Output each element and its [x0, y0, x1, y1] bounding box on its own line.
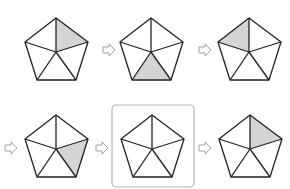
spoke-line [152, 139, 184, 149]
pentagon-sequence-diagram [0, 0, 290, 189]
spoke-line [37, 52, 56, 80]
right-arrow-icon [103, 44, 115, 56]
spoke-line [230, 52, 249, 80]
spoke-line [120, 42, 151, 52]
shaded-sector-bottom [132, 52, 171, 80]
right-arrow-icon [5, 142, 17, 154]
spoke-line [121, 139, 152, 149]
spoke-line [250, 149, 270, 177]
pentagon-3 [218, 18, 281, 80]
spoke-line [37, 149, 56, 177]
right-arrow-icon [199, 44, 211, 56]
spoke-line [56, 52, 76, 80]
spoke-line [152, 149, 172, 177]
spoke-line [25, 42, 56, 52]
pentagon-2 [120, 18, 183, 80]
pentagon-1 [25, 18, 88, 80]
spoke-line [219, 139, 250, 149]
spoke-line [25, 139, 56, 149]
spoke-line [133, 149, 152, 177]
spoke-line [249, 52, 269, 80]
right-arrow-icon [199, 142, 211, 154]
pentagon-6 [219, 115, 282, 177]
pentagon-5[interactable] [112, 105, 194, 187]
spoke-line [151, 42, 183, 52]
spoke-line [249, 42, 281, 52]
spoke-line [231, 149, 250, 177]
pentagon-4 [25, 115, 88, 177]
right-arrow-icon [96, 142, 108, 154]
